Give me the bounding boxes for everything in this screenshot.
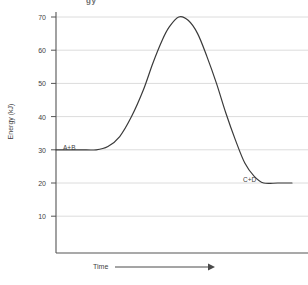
ytick-label-70: 70 (20, 14, 46, 21)
ytick-label-40: 40 (20, 113, 46, 120)
ytick-label-60: 60 (20, 47, 46, 54)
annotation-reactants: A+B (63, 144, 75, 151)
ytick-label-30: 30 (20, 146, 46, 153)
x-axis-title: Time (93, 263, 108, 270)
ytick-label-50: 50 (20, 80, 46, 87)
y-tick-marks (51, 17, 56, 216)
y-axis-tick-labels: 70 60 50 40 30 20 10 (20, 0, 46, 285)
ytick-label-10: 10 (20, 213, 46, 220)
gridlines (56, 17, 308, 216)
ytick-label-20: 20 (20, 180, 46, 187)
annotation-products: C+D (243, 176, 256, 183)
time-arrow-icon (115, 264, 215, 271)
chart-canvas (0, 0, 308, 285)
y-axis-title: Energy (kJ) (7, 91, 14, 153)
energy-diagram-figure: gy (0, 0, 308, 285)
energy-profile-curve (56, 17, 292, 184)
